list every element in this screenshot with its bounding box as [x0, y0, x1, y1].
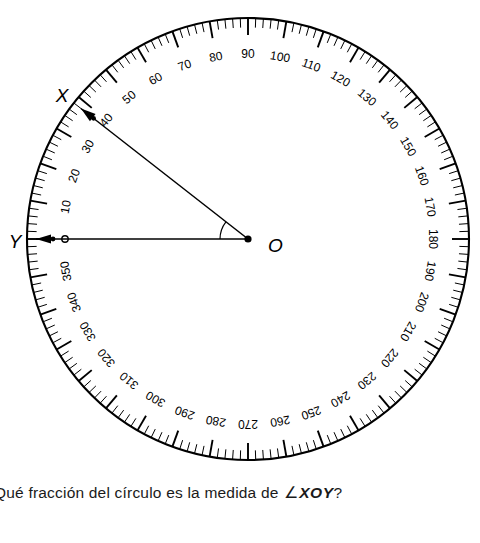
tick-minor	[327, 435, 331, 444]
tick-major	[449, 274, 466, 277]
tick-minor	[225, 449, 226, 458]
tick-minor	[435, 338, 443, 342]
tick-minor	[144, 44, 148, 52]
point-dot-y	[51, 237, 56, 242]
tick-minor	[438, 332, 447, 336]
tick-minor	[299, 444, 301, 453]
tick-minor	[378, 65, 384, 72]
tick-major	[440, 309, 456, 315]
tick-minor	[32, 193, 41, 195]
degree-label: 60	[146, 69, 165, 88]
tick-minor	[74, 369, 81, 375]
tick-minor	[53, 135, 61, 139]
tick-major	[30, 201, 47, 204]
tick-minor	[334, 432, 338, 441]
ray-OX	[81, 108, 248, 239]
tick-minor	[415, 103, 422, 109]
tick-minor	[458, 261, 467, 262]
tick-minor	[441, 149, 450, 153]
point-label-o: O	[268, 235, 283, 256]
tick-minor	[378, 406, 384, 413]
tick-minor	[151, 40, 155, 49]
tick-minor	[69, 109, 77, 115]
tick-minor	[46, 325, 55, 329]
tick-minor	[360, 418, 365, 426]
degree-label: 160	[412, 164, 432, 188]
tick-minor	[118, 410, 124, 418]
tick-minor	[277, 448, 278, 457]
tick-minor	[38, 304, 47, 307]
tick-minor	[131, 52, 136, 60]
tick-minor	[453, 290, 462, 292]
degree-label: 340	[64, 290, 84, 314]
tick-minor	[100, 396, 106, 403]
tick-minor	[395, 391, 402, 398]
tick-minor	[360, 52, 365, 60]
tick-minor	[124, 414, 129, 422]
tick-minor	[124, 56, 129, 64]
tick-minor	[306, 442, 309, 451]
tick-minor	[165, 34, 169, 43]
degree-label: 240	[328, 388, 353, 410]
tick-minor	[415, 369, 422, 375]
tick-minor	[423, 357, 431, 362]
tick-major	[79, 370, 92, 381]
tick-major	[57, 129, 72, 138]
question-text: Qué fracción del círculo es la medida de…	[0, 484, 342, 502]
tick-minor	[28, 224, 37, 225]
tick-minor	[372, 410, 378, 418]
tick-major	[404, 97, 417, 108]
tick-minor	[158, 37, 162, 46]
tick-minor	[65, 115, 73, 120]
tick-minor	[84, 381, 91, 387]
degree-label: 20	[65, 167, 83, 185]
tick-minor	[29, 208, 38, 209]
tick-minor	[313, 29, 316, 38]
tick-minor	[292, 23, 294, 32]
tick-major	[379, 70, 390, 83]
tick-minor	[372, 60, 378, 68]
diagram-canvas: 1020304050607080901001101201301401501601…	[0, 0, 480, 543]
tick-minor	[94, 391, 101, 398]
question-prefix: Qué fracción del círculo es la medida de	[0, 484, 283, 501]
tick-major	[210, 21, 213, 38]
tick-minor	[444, 156, 453, 160]
degree-label: 140	[378, 108, 402, 133]
tick-minor	[457, 268, 466, 269]
degree-label: 250	[299, 403, 323, 423]
tick-major	[425, 341, 440, 350]
degree-label: 50	[119, 87, 138, 107]
tick-minor	[69, 363, 77, 369]
tick-minor	[202, 446, 204, 455]
tick-minor	[89, 386, 96, 393]
tick-minor	[49, 142, 58, 146]
tick-minor	[38, 171, 47, 174]
tick-minor	[299, 25, 301, 34]
tick-major	[440, 163, 456, 169]
degree-label: 170	[422, 196, 439, 218]
tick-minor	[180, 440, 183, 449]
degree-label: 310	[117, 369, 142, 393]
tick-major	[57, 341, 72, 350]
degree-label: 280	[204, 413, 226, 430]
tick-minor	[395, 80, 402, 87]
tick-minor	[306, 27, 309, 36]
point-label-x: X	[55, 85, 70, 106]
vertex-dot	[244, 235, 251, 242]
tick-minor	[419, 109, 427, 115]
degree-label: 190	[422, 260, 439, 282]
tick-minor	[390, 75, 396, 82]
tick-minor	[225, 19, 226, 28]
tick-minor	[459, 254, 468, 255]
tick-minor	[292, 446, 294, 455]
tick-minor	[334, 37, 338, 46]
tick-minor	[28, 254, 37, 255]
tick-minor	[144, 426, 148, 434]
tick-minor	[61, 122, 69, 127]
arrowhead	[36, 234, 51, 243]
degree-label: 40	[97, 110, 117, 129]
tick-minor	[32, 283, 41, 285]
tick-minor	[187, 442, 190, 451]
tick-major	[138, 416, 147, 431]
degree-label: 220	[378, 346, 402, 371]
